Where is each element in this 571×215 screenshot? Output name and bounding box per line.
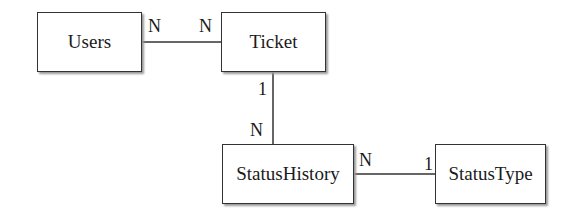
entity-label: Users xyxy=(68,31,111,53)
entity-label: StatusHistory xyxy=(236,163,339,185)
entity-ticket: Ticket xyxy=(221,12,326,72)
entity-label: StatusType xyxy=(448,163,532,185)
entity-users: Users xyxy=(37,12,142,72)
entity-label: Ticket xyxy=(250,31,298,53)
cardinality-statushistory-top: N xyxy=(250,121,263,139)
entity-status-history: StatusHistory xyxy=(222,144,354,204)
entity-status-type: StatusType xyxy=(435,144,546,204)
cardinality-statushistory-right: N xyxy=(359,151,372,169)
cardinality-ticket-bottom: 1 xyxy=(258,80,267,98)
cardinality-statustype-left: 1 xyxy=(424,155,433,173)
cardinality-users-side: N xyxy=(148,17,161,35)
cardinality-ticket-side: N xyxy=(199,17,212,35)
